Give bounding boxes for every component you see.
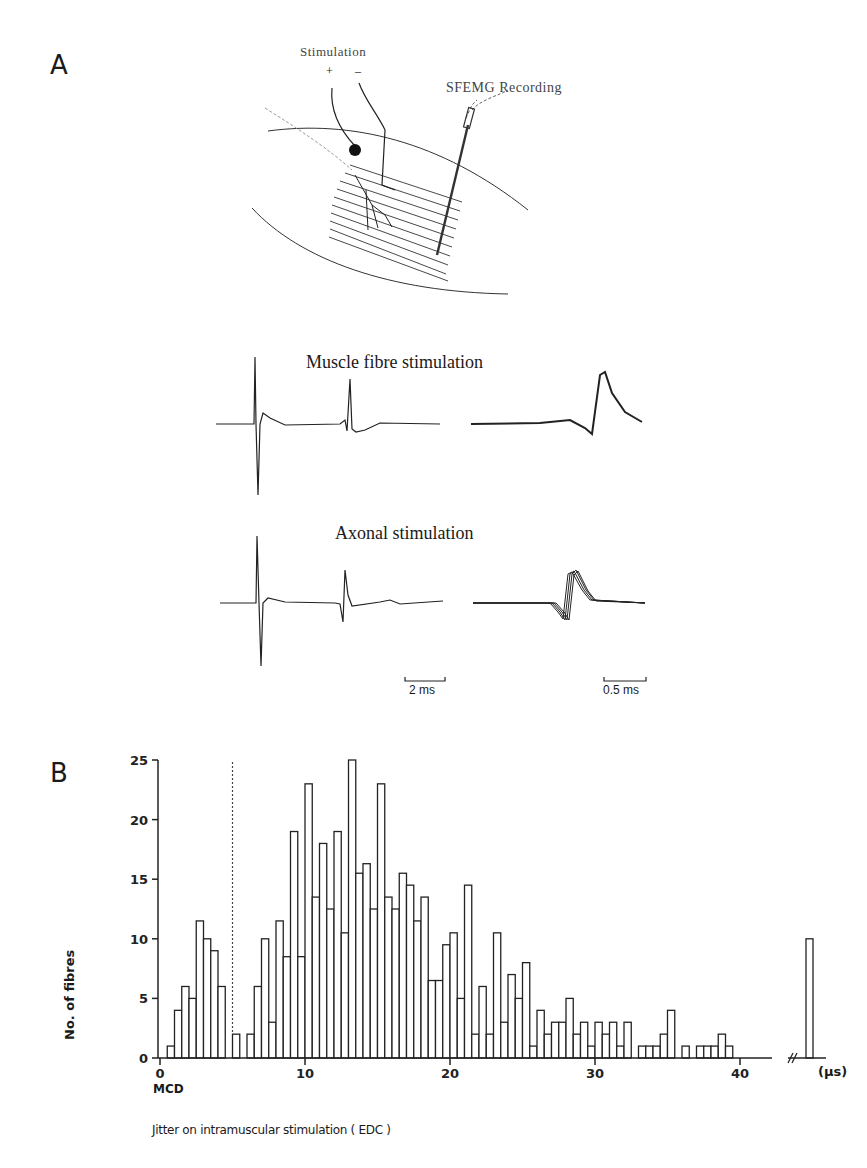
- y-tick-label: 15: [130, 872, 148, 887]
- histogram-bar: [276, 921, 283, 1058]
- histogram-bar: [233, 1034, 240, 1058]
- histogram-bar-overflow: [806, 939, 813, 1058]
- histogram-bar: [428, 981, 435, 1058]
- histogram-bar: [646, 1046, 653, 1058]
- histogram-bar: [639, 1046, 646, 1058]
- histogram-bar: [552, 1022, 559, 1058]
- histogram-bar: [588, 1046, 595, 1058]
- histogram-bar: [414, 921, 421, 1058]
- x-unit-label: (µs): [818, 1064, 847, 1079]
- histogram-bar: [407, 885, 414, 1058]
- histogram-bar: [602, 1034, 609, 1058]
- x-tick-label: 10: [296, 1066, 314, 1081]
- histogram-bar: [254, 986, 261, 1058]
- histogram-bar: [624, 1022, 631, 1058]
- histogram-bar: [559, 1022, 566, 1058]
- histogram-bar: [305, 784, 312, 1058]
- y-tick-label: 10: [130, 932, 148, 947]
- histogram-bar: [269, 1022, 276, 1058]
- histogram-bar: [479, 986, 486, 1058]
- y-tick-label: 0: [139, 1051, 148, 1066]
- histogram-bar: [523, 963, 530, 1058]
- histogram-bar: [486, 1034, 493, 1058]
- histogram-bar: [704, 1046, 711, 1058]
- histogram-bar: [718, 1034, 725, 1058]
- histogram-bar: [530, 1046, 537, 1058]
- y-axis-label: No. of fibres: [62, 950, 77, 1040]
- histogram-bar: [283, 957, 290, 1058]
- histogram-bar: [167, 1046, 174, 1058]
- histogram-bar: [204, 939, 211, 1058]
- histogram-bar: [450, 933, 457, 1058]
- histogram-bar: [312, 897, 319, 1058]
- histogram-bar: [327, 909, 334, 1058]
- x-axis-title: Jitter on intramuscular stimulation ( ED…: [152, 1123, 391, 1137]
- histogram-bar: [392, 909, 399, 1058]
- histogram-bar: [610, 1022, 617, 1058]
- histogram-bar: [668, 1010, 675, 1058]
- histogram-bar: [341, 933, 348, 1058]
- histogram-bar: [334, 832, 341, 1058]
- histogram-bar: [218, 986, 225, 1058]
- histogram-bar: [660, 1034, 667, 1058]
- histogram-bar: [653, 1046, 660, 1058]
- histogram-bar: [697, 1046, 704, 1058]
- mcd-label: MCD: [153, 1082, 184, 1096]
- histogram-bar: [421, 897, 428, 1058]
- histogram-bar: [465, 885, 472, 1058]
- x-tick-label: 40: [731, 1066, 749, 1081]
- histogram-bar: [566, 998, 573, 1058]
- histogram-bar: [211, 951, 218, 1058]
- histogram-bar: [320, 843, 327, 1058]
- histogram-bar: [515, 998, 522, 1058]
- histogram-bar: [189, 998, 196, 1058]
- y-tick-label: 25: [130, 753, 148, 768]
- histogram-bar: [494, 933, 501, 1058]
- histogram-bar: [291, 832, 298, 1058]
- histogram-bar: [617, 1046, 624, 1058]
- histogram-bar: [501, 1022, 508, 1058]
- histogram-bar: [378, 784, 385, 1058]
- histogram-bar: [457, 998, 464, 1058]
- histogram-bar: [182, 986, 189, 1058]
- histogram-bar: [247, 1034, 254, 1058]
- y-tick-label: 20: [130, 813, 148, 828]
- histogram-bar: [298, 957, 305, 1058]
- histogram-bar: [573, 1034, 580, 1058]
- histogram-bar: [436, 981, 443, 1058]
- histogram-bar: [711, 1046, 718, 1058]
- histogram-bar: [262, 939, 269, 1058]
- y-tick-label: 5: [139, 991, 148, 1006]
- histogram-bar: [595, 1022, 602, 1058]
- histogram-bar: [399, 873, 406, 1058]
- histogram-bar: [443, 945, 450, 1058]
- histogram-bar: [349, 760, 356, 1058]
- x-tick-label: 0: [155, 1066, 164, 1081]
- histogram-bar: [682, 1046, 689, 1058]
- histogram-axes: 0510152025010203040: [130, 753, 826, 1081]
- x-tick-label: 20: [441, 1066, 459, 1081]
- histogram-bar: [370, 909, 377, 1058]
- histogram-bar: [356, 873, 363, 1058]
- histogram-bar: [544, 1034, 551, 1058]
- histogram-bar: [537, 1010, 544, 1058]
- histogram-bar: [472, 1034, 479, 1058]
- x-tick-label: 30: [586, 1066, 604, 1081]
- histogram-bar: [508, 975, 515, 1058]
- histogram-bar: [363, 864, 370, 1058]
- histogram-bar: [581, 1022, 588, 1058]
- histogram-bar: [385, 897, 392, 1058]
- histogram-bar: [196, 921, 203, 1058]
- histogram-bars: [167, 760, 813, 1058]
- jitter-histogram: 0510152025010203040: [0, 0, 867, 1168]
- histogram-bar: [726, 1046, 733, 1058]
- histogram-bar: [175, 1010, 182, 1058]
